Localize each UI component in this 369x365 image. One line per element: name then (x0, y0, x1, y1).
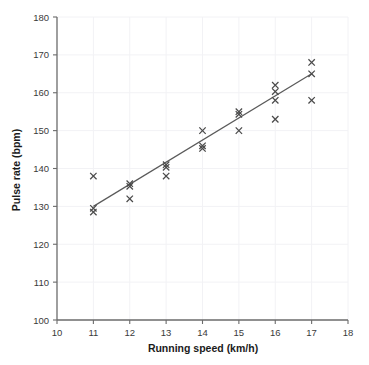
x-tick-label: 16 (270, 327, 281, 338)
x-tick-label: 12 (124, 327, 135, 338)
x-tick-label: 17 (306, 327, 317, 338)
y-tick-label: 170 (33, 49, 49, 60)
y-tick-label: 150 (33, 125, 49, 136)
scatter-chart: 101112131415161718 100110120130140150160… (0, 0, 369, 365)
x-tick-label: 15 (234, 327, 245, 338)
y-axis-tick-labels: 100110120130140150160170180 (33, 12, 49, 326)
y-tick-label: 160 (33, 87, 49, 98)
chart-canvas: 101112131415161718 100110120130140150160… (0, 0, 369, 365)
y-tick-label: 120 (33, 239, 49, 250)
y-tick-label: 100 (33, 315, 49, 326)
tick-marks-layer (53, 17, 348, 324)
x-tick-label: 11 (88, 327, 98, 338)
x-tick-label: 13 (161, 327, 172, 338)
x-tick-label: 18 (343, 327, 354, 338)
y-tick-label: 180 (33, 12, 49, 23)
x-tick-label: 10 (52, 327, 63, 338)
y-tick-label: 130 (33, 201, 49, 212)
y-tick-label: 110 (34, 277, 49, 288)
y-axis-title: Pulse rate (bpm) (10, 129, 22, 211)
x-tick-label: 14 (197, 327, 208, 338)
x-axis-title: Running speed (km/h) (148, 342, 258, 354)
grid-layer (57, 17, 348, 320)
x-axis-tick-labels: 101112131415161718 (52, 327, 354, 338)
y-tick-label: 140 (33, 163, 49, 174)
